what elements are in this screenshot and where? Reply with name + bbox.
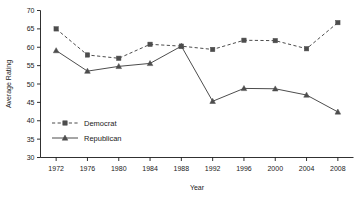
x-axis-title: Year xyxy=(190,184,205,191)
x-tick-label: 1992 xyxy=(205,165,221,172)
legend-label: Republican xyxy=(84,134,122,143)
y-tick-label: 70 xyxy=(27,7,35,14)
y-axis-title: Average Rating xyxy=(5,60,13,108)
data-point-marker xyxy=(336,20,340,24)
x-tick-label: 1988 xyxy=(174,165,190,172)
y-tick-label: 50 xyxy=(27,81,35,88)
y-tick-label: 40 xyxy=(27,117,35,124)
y-tick-label: 55 xyxy=(27,62,35,69)
y-tick-label: 60 xyxy=(27,44,35,51)
y-tick-label: 30 xyxy=(27,154,35,161)
line-chart: 303540455055606570 Average Rating 197219… xyxy=(0,0,361,197)
x-tick-label: 1972 xyxy=(48,165,64,172)
data-point-marker xyxy=(85,53,89,57)
data-point-marker xyxy=(117,56,121,60)
chart-container: 303540455055606570 Average Rating 197219… xyxy=(0,0,361,197)
y-tick-label: 35 xyxy=(27,136,35,143)
data-point-marker xyxy=(148,42,152,46)
legend-label: Democrat xyxy=(84,119,117,128)
x-tick-label: 2000 xyxy=(267,165,283,172)
data-point-marker xyxy=(273,38,277,42)
y-tick-label: 65 xyxy=(27,25,35,32)
data-point-marker xyxy=(210,47,214,51)
x-tick-label: 2004 xyxy=(299,165,315,172)
x-tick-label: 1984 xyxy=(142,165,158,172)
x-tick-label: 1976 xyxy=(80,165,96,172)
data-point-marker xyxy=(63,121,67,125)
x-tick-label: 1996 xyxy=(236,165,252,172)
data-point-marker xyxy=(304,47,308,51)
data-point-marker xyxy=(242,38,246,42)
y-tick-label: 45 xyxy=(27,99,35,106)
y-tick-labels: 303540455055606570 xyxy=(27,7,35,161)
x-tick-label: 2008 xyxy=(330,165,346,172)
x-tick-label: 1980 xyxy=(111,165,127,172)
data-point-marker xyxy=(54,27,58,31)
